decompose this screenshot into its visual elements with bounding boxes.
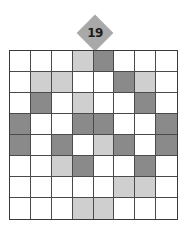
grid-cell[interactable] [135,177,156,198]
grid-cell[interactable] [31,114,52,135]
grid-cell[interactable] [10,93,31,114]
grid-cell[interactable] [31,198,52,219]
grid-cell[interactable] [114,177,135,198]
puzzle-grid [9,50,178,220]
grid-cell[interactable] [94,72,115,93]
puzzle-number: 19 [82,20,108,46]
grid-cell[interactable] [52,135,73,156]
grid-cell[interactable] [31,156,52,177]
grid-cell[interactable] [52,51,73,72]
grid-cell[interactable] [73,198,94,219]
grid-cell[interactable] [94,156,115,177]
grid-cell[interactable] [114,114,135,135]
grid-cell[interactable] [52,198,73,219]
grid-cell[interactable] [114,93,135,114]
grid-cell[interactable] [31,51,52,72]
grid-cell[interactable] [156,177,177,198]
puzzle-number-badge: 19 [82,20,108,46]
grid-cell[interactable] [52,177,73,198]
grid-cell[interactable] [94,135,115,156]
grid-cell[interactable] [94,93,115,114]
grid-cell[interactable] [52,156,73,177]
grid-cell[interactable] [94,177,115,198]
grid-cell[interactable] [10,177,31,198]
grid-cell[interactable] [73,114,94,135]
grid-cell[interactable] [73,72,94,93]
grid-cell[interactable] [31,72,52,93]
grid-cell[interactable] [73,93,94,114]
grid-cell[interactable] [135,51,156,72]
grid-cell[interactable] [156,114,177,135]
grid-cell[interactable] [10,156,31,177]
grid-cell[interactable] [114,135,135,156]
grid-cell[interactable] [156,156,177,177]
grid-cell[interactable] [10,135,31,156]
grid-cell[interactable] [31,135,52,156]
grid-cell[interactable] [10,114,31,135]
grid-cell[interactable] [31,177,52,198]
grid-cell[interactable] [156,51,177,72]
grid-cell[interactable] [114,198,135,219]
grid-cell[interactable] [94,114,115,135]
grid-cell[interactable] [52,114,73,135]
grid-cell[interactable] [135,72,156,93]
grid-cell[interactable] [135,135,156,156]
grid-cell[interactable] [73,51,94,72]
grid-cell[interactable] [135,93,156,114]
grid-cell[interactable] [31,93,52,114]
grid-cell[interactable] [10,72,31,93]
grid-cell[interactable] [135,198,156,219]
grid-cell[interactable] [114,51,135,72]
grid-cell[interactable] [52,72,73,93]
grid-cell[interactable] [52,93,73,114]
grid-cell[interactable] [114,72,135,93]
grid-cell[interactable] [73,177,94,198]
grid-cell[interactable] [135,114,156,135]
grid-cell[interactable] [156,135,177,156]
grid-cell[interactable] [94,51,115,72]
grid-cell[interactable] [10,198,31,219]
grid-cell[interactable] [10,51,31,72]
grid-cell[interactable] [156,93,177,114]
grid-cell[interactable] [135,156,156,177]
grid-cell[interactable] [156,198,177,219]
grid-cell[interactable] [73,156,94,177]
grid-cell[interactable] [114,156,135,177]
grid-cell[interactable] [94,198,115,219]
grid-cell[interactable] [156,72,177,93]
grid-cell[interactable] [73,135,94,156]
